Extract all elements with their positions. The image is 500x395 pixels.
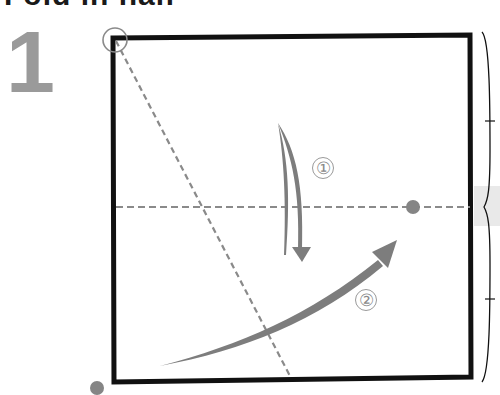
reference-dot-right-icon [406,200,420,214]
fold-arrow-1-icon [278,123,311,262]
reference-dot-bottom-left-icon [90,381,104,395]
step-label-1: ① [312,157,334,179]
fold-diagram [0,0,500,395]
diagonal-fold-line [116,41,291,378]
brace-highlight-band [474,186,500,226]
step-label-2: ② [355,289,377,311]
